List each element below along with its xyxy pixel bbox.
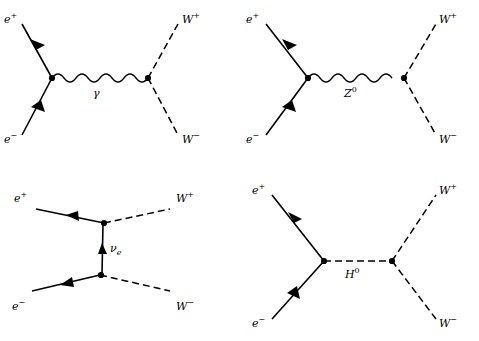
label-neutrino-propagator: νe	[110, 243, 121, 254]
outgoing-w-minus-dashed-line	[148, 78, 178, 135]
label-higgs-propagator: H0	[345, 269, 360, 280]
incoming-positron-line	[272, 195, 324, 261]
top-vertex-dot	[101, 220, 107, 226]
diagram-higgs-exchange: e+ e− W+ W− H0	[240, 171, 479, 341]
photon-exchange-svg	[0, 0, 239, 170]
label-outgoing-w-minus: W−	[182, 134, 200, 145]
label-incoming-positron: e+	[252, 185, 265, 196]
diagram-photon-exchange: e+ e− W+ W− γ	[0, 0, 239, 170]
outgoing-w-plus-dashed-line	[148, 24, 178, 78]
z-propagator-wavy-line	[308, 74, 392, 82]
outgoing-w-plus-dashed-line	[404, 24, 436, 78]
outgoing-w-minus-dashed-line	[100, 275, 170, 291]
label-incoming-electron: e−	[4, 134, 17, 145]
bottom-vertex-dot	[98, 272, 104, 278]
label-outgoing-w-plus: W+	[439, 185, 457, 196]
label-incoming-electron: e−	[12, 301, 25, 312]
right-vertex-dot	[389, 258, 395, 264]
left-vertex-dot	[321, 258, 327, 264]
outgoing-w-plus-dashed-line	[392, 195, 436, 261]
diagram-neutrino-exchange: e+ e− W+ W− νe	[0, 171, 239, 341]
label-incoming-positron: e+	[14, 193, 27, 204]
incoming-positron-line	[266, 24, 308, 78]
incoming-positron-line	[22, 24, 52, 78]
photon-propagator-wavy-line	[52, 74, 148, 82]
label-outgoing-w-plus: W+	[176, 193, 194, 204]
label-outgoing-w-plus: W+	[182, 14, 200, 25]
label-outgoing-w-minus: W−	[439, 318, 457, 329]
label-incoming-electron: e−	[246, 134, 259, 145]
label-outgoing-w-minus: W−	[176, 301, 194, 312]
label-z-propagator: Z0	[344, 88, 357, 99]
outgoing-w-plus-dashed-line	[104, 209, 170, 223]
diagram-z-boson-exchange: e+ e− W+ W− Z0	[240, 0, 479, 170]
label-incoming-electron: e−	[252, 318, 265, 329]
neutrino-propagator-arrow-icon	[98, 243, 107, 254]
incoming-electron-arrow-icon	[287, 286, 300, 299]
incoming-electron-arrow-icon	[60, 277, 74, 287]
label-outgoing-w-minus: W−	[439, 134, 457, 145]
incoming-electron-arrow-icon	[31, 100, 45, 112]
outgoing-w-minus-dashed-line	[392, 261, 436, 319]
outgoing-w-minus-dashed-line	[404, 78, 436, 135]
incoming-electron-line	[272, 261, 324, 319]
left-vertex-dot	[49, 75, 55, 81]
left-vertex-dot	[305, 75, 311, 81]
right-vertex-dot	[145, 75, 151, 81]
feynman-diagram-figure: e+ e− W+ W− γ e+ e− W+ W− Z0	[0, 0, 479, 341]
right-vertex-dot	[401, 75, 407, 81]
label-incoming-positron: e+	[4, 14, 17, 25]
label-outgoing-w-plus: W+	[439, 14, 457, 25]
label-incoming-positron: e+	[246, 14, 259, 25]
label-photon-propagator: γ	[93, 88, 100, 99]
incoming-positron-arrow-icon	[30, 39, 45, 50]
